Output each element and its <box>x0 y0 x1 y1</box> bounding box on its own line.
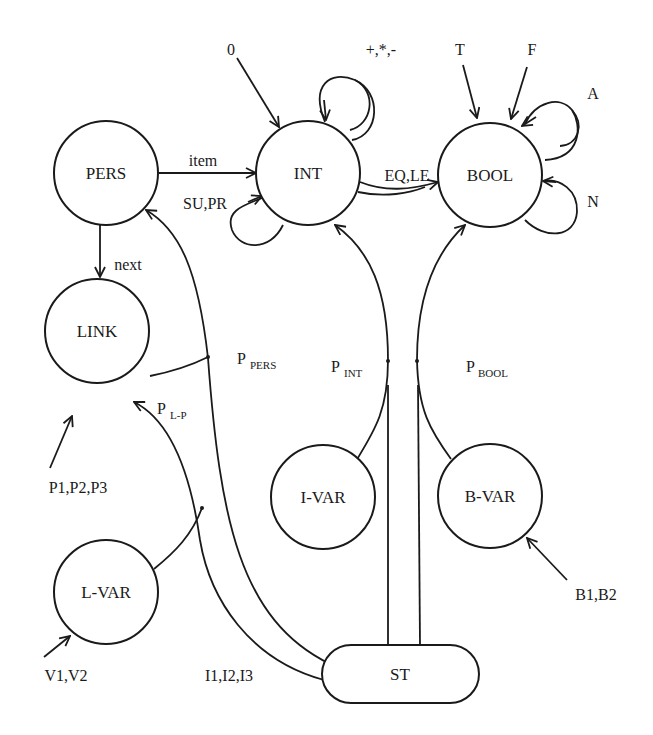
label-b12: B1,B2 <box>575 586 616 603</box>
node-st[interactable]: ST <box>322 645 479 703</box>
label-p-pers-main: P <box>237 350 246 367</box>
signature-diagram: PERS INT BOOL LINK I-VAR B-VAR L-VAR ST … <box>0 0 653 735</box>
node-int[interactable]: INT <box>256 121 360 225</box>
node-ivar[interactable]: I-VAR <box>271 445 375 549</box>
label-p-int-main: P <box>331 358 340 375</box>
label-zero: 0 <box>227 41 235 58</box>
edge-a-loop-outer <box>545 110 578 160</box>
node-int-label: INT <box>294 164 323 183</box>
node-bool[interactable]: BOOL <box>438 123 542 227</box>
edge-p-int-junction <box>386 359 390 363</box>
edge-a-loop-inner <box>525 102 579 146</box>
node-st-label: ST <box>390 665 410 684</box>
node-lvar[interactable]: L-VAR <box>54 540 158 644</box>
edge-p123-to-link <box>50 416 72 468</box>
edge-int-ops-arrowhead <box>324 100 326 120</box>
edge-p-bool-st-branch <box>418 385 420 645</box>
label-p-bool-sub: BOOL <box>478 367 508 379</box>
node-ivar-label: I-VAR <box>300 488 346 507</box>
label-f: F <box>528 41 537 58</box>
label-p-pers: P PERS <box>237 350 276 371</box>
label-a: A <box>587 85 599 102</box>
edge-p-pers-link-branch <box>150 357 208 376</box>
node-pers-label: PERS <box>86 164 127 183</box>
label-p-lp-sub: L-P <box>170 409 187 421</box>
edge-t-to-bool <box>463 65 477 118</box>
edge-p-pers <box>146 210 330 664</box>
edge-zero-to-int <box>237 58 279 127</box>
edge-int-ops-loop-outer <box>352 80 374 140</box>
label-next: next <box>114 256 142 273</box>
edge-p-pers-junction <box>206 355 210 359</box>
label-p-lp-main: P <box>157 400 166 417</box>
label-p-bool: P BOOL <box>466 358 508 379</box>
edge-v12-to-lvar <box>44 636 70 657</box>
node-bvar-label: B-VAR <box>465 487 516 506</box>
edge-p-lp-junction <box>200 506 204 510</box>
label-eq-le: EQ,LE <box>385 167 430 184</box>
node-bvar[interactable]: B-VAR <box>438 444 542 548</box>
label-su-pr: SU,PR <box>183 195 227 212</box>
edge-p-lp-lvar-branch <box>154 508 202 569</box>
label-t: T <box>455 41 465 58</box>
node-pers[interactable]: PERS <box>54 121 158 225</box>
label-p-lp: P L-P <box>157 400 187 421</box>
label-p-pers-sub: PERS <box>250 359 276 371</box>
node-lvar-label: L-VAR <box>81 583 131 602</box>
label-p-int: P INT <box>331 358 363 379</box>
edge-p-bool-junction <box>415 359 419 363</box>
label-item: item <box>189 152 218 169</box>
edge-f-to-bool <box>511 67 527 119</box>
edge-b12-to-bvar <box>527 538 567 580</box>
edge-p-int <box>335 225 388 461</box>
label-p-bool-main: P <box>466 358 475 375</box>
edge-p-bool <box>417 225 465 459</box>
node-bool-label: BOOL <box>467 166 513 185</box>
label-p-int-sub: INT <box>344 367 363 379</box>
label-p123: P1,P2,P3 <box>49 479 108 496</box>
edge-n-arrowhead <box>543 181 556 182</box>
node-link[interactable]: LINK <box>45 279 149 383</box>
label-i123: I1,I2,I3 <box>205 667 253 684</box>
label-ops: +,*,- <box>366 41 396 58</box>
label-v12: V1,V2 <box>44 667 87 684</box>
label-n: N <box>587 193 599 210</box>
node-link-label: LINK <box>77 322 118 341</box>
